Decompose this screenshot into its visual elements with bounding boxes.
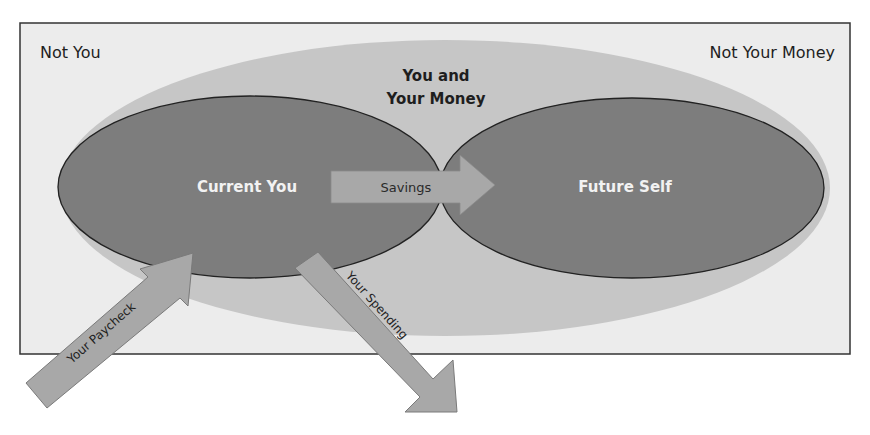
label-not-your-money: Not Your Money [710, 43, 835, 62]
label-not-you: Not You [40, 43, 101, 62]
label-current-you: Current You [197, 178, 297, 196]
label-you-and: You and [401, 67, 469, 85]
label-your-money: Your Money [386, 90, 486, 108]
diagram-canvas: Not You Not Your Money You and Your Mone… [0, 0, 870, 435]
label-savings: Savings [381, 180, 432, 195]
label-future-self: Future Self [578, 178, 672, 196]
